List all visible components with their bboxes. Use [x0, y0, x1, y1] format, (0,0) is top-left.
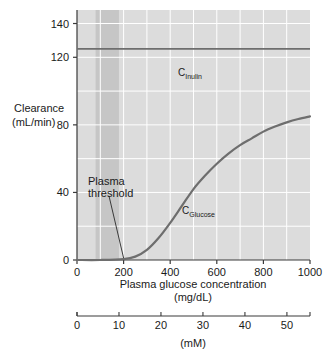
plasma-threshold-label-line2: threshold [88, 187, 133, 199]
y-tick-label: 0 [63, 254, 69, 266]
x-tick-label: 800 [254, 266, 272, 278]
plasma-threshold-label-line1: Plasma [88, 175, 126, 187]
y-axis-title-line2: (mL/min) [12, 116, 55, 128]
mm-tick-label: 10 [113, 319, 125, 331]
x-tick-label: 600 [208, 266, 226, 278]
y-tick-label: 140 [51, 18, 69, 30]
mm-axis-title: (mM) [180, 337, 206, 349]
mm-tick-label: 40 [239, 319, 251, 331]
x-axis-ticks: 02004006008001000 [74, 260, 322, 278]
x-tick-label: 1000 [298, 266, 322, 278]
mm-axis-ticks: 01020304050 [74, 312, 310, 331]
mm-tick-label: 50 [281, 319, 293, 331]
clearance-vs-glucose-chart: 04080120140 02004006008001000 CInulin CG… [0, 0, 324, 354]
mm-tick-label: 30 [197, 319, 209, 331]
y-axis-ticks: 04080120140 [51, 18, 77, 266]
y-tick-label: 120 [51, 51, 69, 63]
mm-tick-label: 0 [74, 319, 80, 331]
x-tick-label: 400 [161, 266, 179, 278]
y-tick-label: 80 [57, 119, 69, 131]
x-tick-label: 0 [74, 266, 80, 278]
y-tick-label: 40 [57, 186, 69, 198]
x-axis-title-line2: (mg/dL) [174, 291, 212, 303]
x-axis-title-line1: Plasma glucose concentration [120, 278, 267, 290]
mm-tick-label: 20 [155, 319, 167, 331]
figure-container: 04080120140 02004006008001000 CInulin CG… [0, 0, 324, 354]
y-axis-title-line1: Clearance [14, 102, 64, 114]
x-tick-label: 200 [114, 266, 132, 278]
